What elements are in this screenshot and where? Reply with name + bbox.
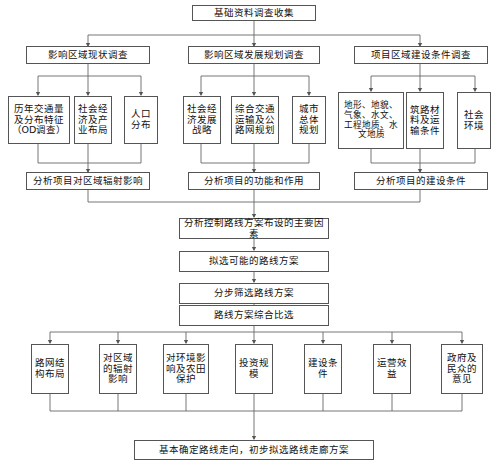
node-label: 运营效益 [376,358,408,379]
node-impact-area-development-plan-survey[interactable]: 影响区域发展规划调查 [188,46,320,64]
node-analyze-project-construction-conditions[interactable]: 分析项目的建设条件 [354,172,488,190]
flowchart-canvas: 基础资料调查收集 影响区域现状调查 影响区域发展规划调查 项目区域建设条件调查 … [0,0,499,469]
node-project-area-construction-conditions-survey[interactable]: 项目区域建设条件调查 [354,46,488,64]
node-stepwise-screening-route-options[interactable]: 分步筛选路线方案 [179,283,329,304]
node-socioeconomic-development-strategy[interactable]: 社会经济发展战略 [183,96,221,144]
node-impact-area-status-survey[interactable]: 影响区域现状调查 [26,46,150,64]
node-criteria-operation-benefit[interactable]: 运营效益 [373,344,411,394]
node-label: 社会经济及产业布局 [77,104,109,136]
node-basic-data-survey[interactable]: 基础资料调查收集 [192,5,316,21]
node-label: 综合交通运输及公路网规划 [234,104,276,136]
node-conclusion-route-corridor[interactable]: 基本确定路线走向，初步拟选路线走廊方案 [134,440,374,460]
node-label: 影响区域发展规划调查 [191,50,317,61]
node-label: 项目区域建设条件调查 [357,50,485,61]
node-label: 对区域的辐射影响 [102,353,134,385]
node-criteria-environment-farmland-protection[interactable]: 对环境影响及农田保护 [163,344,209,394]
node-label: 建设条件 [307,358,339,379]
node-criteria-investment-scale[interactable]: 投资规模 [235,344,273,394]
node-label: 城市总体规划 [295,104,323,136]
node-criteria-regional-radiation-impact[interactable]: 对区域的辐射影响 [99,344,137,394]
node-label: 分步筛选路线方案 [182,288,326,299]
node-socioeconomic-industry-layout[interactable]: 社会经济及产业布局 [74,96,112,144]
node-label: 基本确定路线走向，初步拟选路线走廊方案 [137,445,371,456]
node-label: 影响区域现状调查 [29,50,147,61]
node-label: 分析项目的建设条件 [357,176,485,187]
node-label: 拟选可能的路线方案 [182,256,326,267]
node-label: 社会环境 [460,110,488,131]
node-social-environment[interactable]: 社会环境 [457,92,491,149]
node-analyze-main-factors-route-layout[interactable]: 分析控制路线方案布设的主要因素 [179,218,329,239]
node-criteria-government-public-opinion[interactable]: 政府及民众的意见 [441,344,483,394]
node-label: 分析控制路线方案布设的主要因素 [182,218,326,239]
node-analyze-project-function-role[interactable]: 分析项目的功能和作用 [188,172,320,190]
node-urban-master-plan[interactable]: 城市总体规划 [292,96,326,144]
node-label: 人口分布 [127,109,155,130]
node-road-materials-transport-conditions[interactable]: 筑路材料及运输条件 [406,92,444,149]
node-label: 分析项目对区域辐射影响 [29,176,147,187]
node-analyze-regional-radiation-impact[interactable]: 分析项目对区域辐射影响 [26,172,150,190]
node-label: 对环境影响及农田保护 [166,353,206,385]
node-label: 路网结构布局 [34,358,66,379]
node-criteria-road-network-structure[interactable]: 路网结构布局 [31,344,69,394]
node-criteria-construction-conditions[interactable]: 建设条件 [304,344,342,394]
node-label: 路线方案综合比选 [182,310,326,321]
node-label: 社会经济发展战略 [186,104,218,136]
node-label: 基础资料调查收集 [195,8,313,19]
node-label: 筑路材料及运输条件 [409,105,441,137]
node-label: 政府及民众的意见 [444,353,480,385]
node-integrated-transport-highway-network-plan[interactable]: 综合交通运输及公路网规划 [231,96,279,144]
node-label: 投资规模 [238,358,270,379]
node-propose-possible-route-options[interactable]: 拟选可能的路线方案 [179,251,329,272]
node-comprehensive-comparison-route-options[interactable]: 路线方案综合比选 [179,305,329,326]
node-population-distribution[interactable]: 人口分布 [124,96,158,144]
node-label: 分析项目的功能和作用 [191,176,317,187]
node-historical-traffic-volume-od-survey[interactable]: 历年交通量及分布特征（OD调查） [8,96,70,144]
node-label: 历年交通量及分布特征（OD调查） [11,104,67,136]
node-terrain-climate-hydrology-geology[interactable]: 地形、地貌、气象、水文、工程地质、水文地质 [338,92,404,149]
node-label: 地形、地貌、气象、水文、工程地质、水文地质 [341,101,401,140]
